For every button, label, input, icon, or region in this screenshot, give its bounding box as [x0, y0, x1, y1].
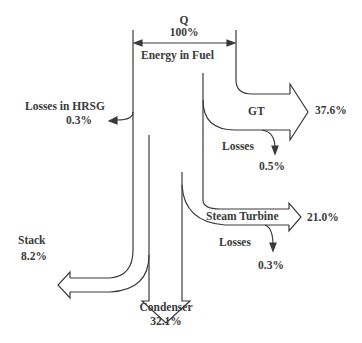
st-losses-arrowhead — [270, 243, 276, 251]
gt-percent: 37.6% — [315, 104, 347, 117]
condenser-percent: 32.1% — [130, 315, 202, 328]
gt-losses-label: Losses — [222, 140, 254, 153]
st-losses-percent: 0.3% — [258, 259, 284, 272]
hrsg-losses-percent: 0.3% — [66, 114, 92, 127]
dimension-arrow-right — [227, 40, 235, 46]
stack-label: Stack — [18, 234, 45, 247]
st-losses-arrow — [265, 225, 273, 245]
gt-arrow-head — [290, 84, 308, 140]
hrsg-losses-arrowhead — [109, 117, 117, 124]
stack-flow-inner — [70, 135, 149, 292]
steam-turbine-percent: 21.0% — [307, 211, 339, 224]
gt-losses-percent: 0.5% — [259, 160, 285, 173]
dimension-arrow-left — [134, 40, 142, 46]
st-arrow-head — [289, 203, 301, 231]
gt-flow-bottom — [203, 73, 290, 130]
gt-losses-arrow — [262, 130, 275, 148]
gt-flow-top — [236, 30, 290, 94]
source-label: Energy in Fuel — [141, 49, 214, 62]
hrsg-losses-label: Losses in HRSG — [25, 100, 105, 113]
st-losses-label: Losses — [219, 236, 251, 249]
st-flow-top — [203, 100, 289, 209]
source-percent: 100% — [158, 26, 210, 39]
gt-label: GT — [248, 105, 265, 118]
gt-losses-arrowhead — [272, 146, 278, 154]
condenser-label: Condenser — [130, 301, 202, 314]
steam-turbine-label: Steam Turbine — [206, 210, 279, 223]
stack-arrow-head — [58, 272, 70, 298]
left-outer-line — [70, 30, 133, 278]
hrsg-losses-arrow — [117, 112, 133, 120]
stack-percent: 8.2% — [21, 250, 47, 263]
